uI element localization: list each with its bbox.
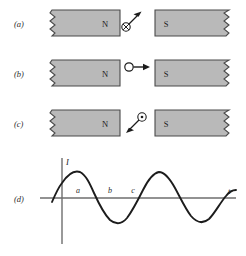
arrow-shaft xyxy=(129,120,139,130)
panel-d-label: (d) xyxy=(14,194,24,204)
panel-b-left-magnet: N xyxy=(50,60,120,86)
panel-b-right-magnet: S xyxy=(155,60,229,86)
panel-a-right-pole-label: S xyxy=(164,19,169,29)
panel-a-right-magnet: S xyxy=(155,10,229,36)
y-axis-label: I xyxy=(65,157,70,167)
panel-a-velocity-arrow-icon xyxy=(129,12,142,25)
charge-center-dot xyxy=(141,116,144,119)
panel-c-left-pole-label: N xyxy=(102,119,108,129)
panel-b: (b) N S xyxy=(14,60,229,86)
panel-b-velocity-arrow-icon xyxy=(134,64,151,70)
annotation-a: a xyxy=(76,186,80,195)
magnet-body xyxy=(50,110,120,136)
panel-c-right-pole-label: S xyxy=(164,119,169,129)
panel-c: (c) N S xyxy=(14,110,229,136)
panel-c-right-magnet: S xyxy=(155,110,229,136)
annotation-c: c xyxy=(131,186,135,195)
panel-a-label: (a) xyxy=(14,19,24,29)
panel-b-left-pole-label: N xyxy=(102,69,108,79)
arrow-head xyxy=(143,64,150,70)
panel-a: (a) N S xyxy=(14,10,229,36)
magnet-body xyxy=(50,10,120,36)
panel-b-charge-neutral-icon xyxy=(125,63,133,71)
panel-b-right-pole-label: S xyxy=(164,69,169,79)
panel-d-graph: (d) I t a b c xyxy=(14,157,236,244)
panel-a-left-pole-label: N xyxy=(102,19,108,29)
annotation-b: b xyxy=(108,186,112,195)
arrow-head xyxy=(126,128,134,133)
panel-c-left-magnet: N xyxy=(50,110,120,136)
panel-b-label: (b) xyxy=(14,69,24,79)
panel-c-charge-out-of-page-icon xyxy=(138,113,146,121)
physics-figure: (a) N S (b) N S xyxy=(0,0,246,256)
panel-c-label: (c) xyxy=(14,119,24,129)
magnet-body xyxy=(50,60,120,86)
panel-a-left-magnet: N xyxy=(50,10,120,36)
charge-circle xyxy=(125,63,133,71)
panel-c-velocity-arrow-icon xyxy=(126,120,139,133)
arrow-head xyxy=(134,12,142,17)
